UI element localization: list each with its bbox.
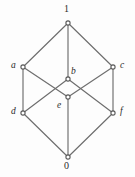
- node-label-e: e: [57, 100, 61, 110]
- vertex-f: [111, 111, 115, 115]
- edge-f-bottom: [68, 113, 113, 157]
- edge-d-bottom: [23, 113, 68, 157]
- node-label-d: d: [11, 106, 16, 116]
- node-label-c: c: [120, 60, 124, 70]
- vertex-c: [111, 65, 115, 69]
- edge-b-f: [68, 79, 113, 113]
- vertex-e: [66, 95, 70, 99]
- hasse-diagram-figure: 1acbedf0: [0, 0, 135, 177]
- node-label-f: f: [120, 106, 123, 116]
- edge-a-e: [23, 67, 68, 97]
- node-label-b: b: [71, 66, 76, 76]
- vertex-bottom: [66, 155, 70, 159]
- node-label-top: 1: [64, 4, 69, 14]
- node-label-bottom: 0: [64, 161, 69, 171]
- edge-top-a: [23, 23, 68, 67]
- node-label-a: a: [11, 60, 16, 70]
- edge-top-c: [68, 23, 113, 67]
- vertex-d: [21, 111, 25, 115]
- edge-layer: [23, 23, 113, 157]
- vertex-b: [66, 77, 70, 81]
- hasse-diagram-canvas: [0, 0, 135, 177]
- vertex-top: [66, 21, 70, 25]
- vertex-a: [21, 65, 25, 69]
- edge-b-d: [23, 79, 68, 113]
